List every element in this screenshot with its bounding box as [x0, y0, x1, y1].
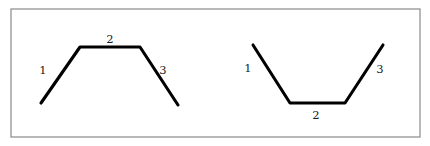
left-label-2: 2: [106, 32, 113, 46]
left-label-3: 3: [159, 63, 166, 77]
figure-svg: 1 2 3 1 2 3: [0, 0, 430, 146]
right-label-2: 2: [312, 108, 319, 122]
right-label-1: 1: [244, 61, 251, 75]
right-label-3: 3: [376, 62, 383, 76]
figure-canvas: 1 2 3 1 2 3: [0, 0, 430, 146]
left-label-1: 1: [39, 63, 46, 77]
outer-border: [11, 9, 420, 137]
